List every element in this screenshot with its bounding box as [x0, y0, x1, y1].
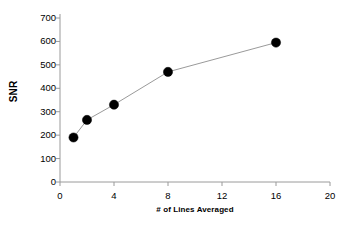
series-line	[74, 43, 277, 138]
data-point-marker	[271, 38, 280, 47]
data-point-marker	[109, 100, 118, 109]
data-point-marker	[82, 115, 91, 124]
data-point-marker	[163, 67, 172, 76]
snr-line-chart: SNR 0100200300400500600700 048121620 # o…	[0, 0, 352, 225]
data-point-marker	[69, 133, 78, 142]
plot-area	[0, 0, 352, 225]
